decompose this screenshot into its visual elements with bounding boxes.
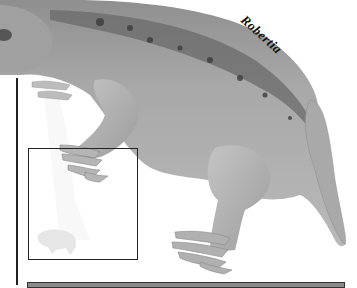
caption-bar xyxy=(27,282,345,288)
callout-line xyxy=(16,78,18,285)
scale-inset-box xyxy=(28,148,138,260)
